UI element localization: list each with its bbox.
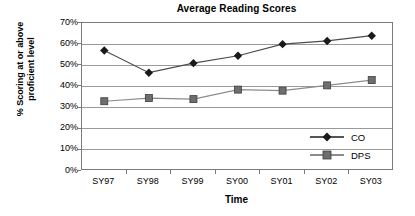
y-axis-tick-mark — [77, 170, 81, 171]
data-point-dps-SY98 — [145, 95, 152, 102]
x-axis-tick-label: SY03 — [346, 176, 396, 186]
legend-label-dps: DPS — [351, 150, 371, 161]
y-axis-tick-label: 30% — [38, 102, 78, 111]
diamond-marker-icon — [310, 130, 344, 144]
y-axis-tick-label: 60% — [38, 39, 78, 48]
chart-legend: CO DPS — [310, 128, 390, 164]
x-axis-tick-label: SY00 — [212, 176, 262, 186]
data-point-co-SY01 — [278, 40, 286, 48]
legend-label-co: CO — [351, 132, 365, 143]
x-axis-tick-mark — [259, 170, 260, 174]
x-axis-tick-mark — [215, 170, 216, 174]
y-axis-tick-label: 40% — [38, 81, 78, 90]
data-point-dps-SY97 — [101, 98, 108, 105]
legend-item-co: CO — [310, 128, 390, 146]
data-point-co-SY98 — [145, 68, 153, 76]
y-axis-tick-label: 20% — [38, 123, 78, 132]
y-axis-tick-label: 0% — [38, 166, 78, 175]
x-axis-tick-mark — [170, 170, 171, 174]
data-point-co-SY00 — [234, 52, 242, 60]
data-point-dps-SY00 — [235, 86, 242, 93]
x-axis-tick-mark — [348, 170, 349, 174]
data-point-dps-SY02 — [324, 82, 331, 89]
y-axis-tick-label: 70% — [38, 18, 78, 27]
y-axis-tick-label: 50% — [38, 60, 78, 69]
x-axis-title: Time — [80, 194, 393, 205]
data-point-co-SY99 — [189, 59, 197, 67]
data-point-dps-SY99 — [190, 96, 197, 103]
x-axis-tick-mark — [126, 170, 127, 174]
legend-item-dps: DPS — [310, 146, 390, 164]
plot-area: CO DPS — [81, 22, 393, 170]
data-point-co-SY02 — [323, 37, 331, 45]
x-axis-tick-label: SY97 — [78, 176, 128, 186]
x-axis-tick-label: SY98 — [123, 176, 173, 186]
x-axis-tick-mark — [304, 170, 305, 174]
data-point-co-SY03 — [368, 31, 376, 39]
x-axis-tick-label: SY02 — [301, 176, 351, 186]
x-axis-tick-label: SY99 — [167, 176, 217, 186]
data-point-dps-SY03 — [368, 77, 375, 84]
y-axis-tick-label: 10% — [38, 144, 78, 153]
square-marker-icon — [310, 148, 344, 162]
data-point-co-SY97 — [100, 46, 108, 54]
data-point-dps-SY01 — [279, 87, 286, 94]
chart-container: Average Reading Scores % Scoring at or a… — [0, 0, 415, 216]
x-axis-tick-label: SY01 — [257, 176, 307, 186]
